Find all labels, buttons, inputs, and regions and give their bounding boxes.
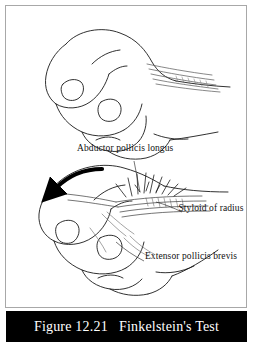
- anatomical-illustration: [6, 6, 246, 307]
- figure-caption-text: Figure 12.21 Finkelstein's Test: [34, 319, 219, 335]
- figure-caption-bar: Figure 12.21 Finkelstein's Test: [6, 311, 247, 342]
- bottom-hand-figure: [39, 165, 228, 295]
- top-hand-figure: [45, 30, 230, 160]
- figure-plate: Abductor pollicis longus Styloid of radi…: [0, 0, 254, 349]
- label-extensor-pollicis-brevis: Extensor pollicis brevis: [141, 251, 241, 262]
- top-tendon-bundle: [147, 64, 220, 92]
- label-abductor-pollicis-longus: Abductor pollicis longus: [77, 143, 173, 154]
- radial-styloid-pain-starburst: [116, 173, 186, 197]
- label-styloid-of-radius: Styloid of radius: [178, 203, 244, 214]
